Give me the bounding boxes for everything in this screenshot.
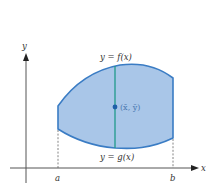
top-curve-label: y = f(x) [99, 52, 132, 62]
bottom-curve-label: y = g(x) [99, 152, 134, 162]
y-axis-arrow-icon [23, 53, 29, 61]
centroid-label: (x̄, ȳ) [120, 103, 140, 112]
y-axis-label: y [21, 41, 27, 51]
left-bound-label: a [55, 173, 60, 183]
centroid-diagram: x y (x̄, ȳ) y = f(x) y = g(x) a b [0, 0, 211, 189]
centroid-point [113, 105, 118, 110]
right-bound-label: b [170, 173, 175, 183]
x-axis-label: x [201, 163, 206, 173]
x-axis-arrow-icon [191, 165, 199, 171]
